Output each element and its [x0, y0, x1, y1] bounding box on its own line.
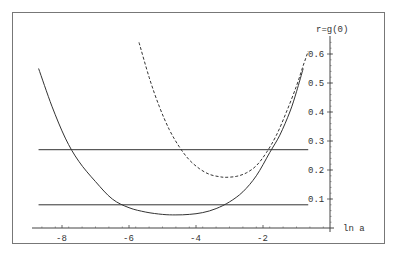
x-tick-label: -2 — [257, 234, 268, 244]
y-tick-label: 0.1 — [308, 195, 324, 205]
y-axis-label: r=g(0) — [316, 25, 348, 35]
x-tick-label: -6 — [123, 234, 134, 244]
y-tick-label: 0.2 — [308, 166, 324, 176]
y-tick-label: 0.4 — [308, 108, 324, 118]
plot-frame — [13, 13, 385, 244]
y-tick-label: 0.5 — [308, 79, 324, 89]
x-tick-label: -8 — [56, 234, 67, 244]
x-tick-label: -4 — [190, 234, 201, 244]
y-tick-label: 0.6 — [308, 50, 324, 60]
x-axis-label: ln a — [343, 224, 365, 234]
y-tick-label: 0.3 — [308, 137, 324, 147]
chart: -8-6-4-20.10.20.30.40.50.6 r=g(0) ln a — [0, 0, 394, 256]
